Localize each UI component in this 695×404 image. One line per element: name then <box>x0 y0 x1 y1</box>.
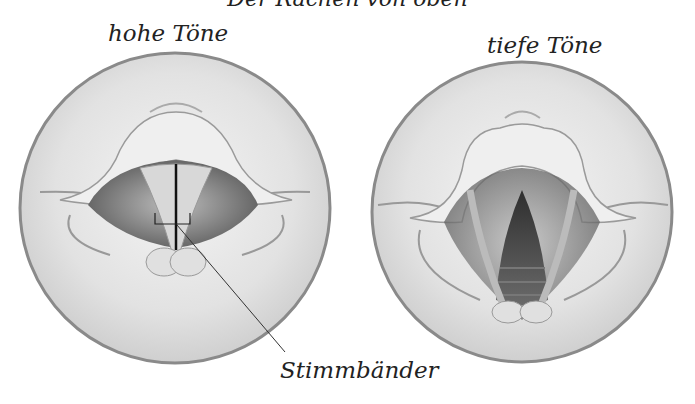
panel-high-tones <box>20 53 330 363</box>
label-vocal-cords: Stimmbänder <box>280 357 439 383</box>
panel-low-tones <box>372 62 672 362</box>
larynx-illustration <box>0 0 695 404</box>
label-high-tones: hohe Töne <box>108 20 228 46</box>
label-low-tones: tiefe Töne <box>487 32 602 58</box>
